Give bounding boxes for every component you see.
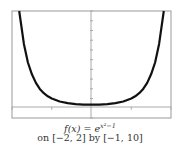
window-caption: on [−2, 2] by [−1, 10]	[0, 132, 180, 144]
function-exponent: x²−1	[100, 122, 116, 130]
function-graph	[0, 0, 180, 120]
